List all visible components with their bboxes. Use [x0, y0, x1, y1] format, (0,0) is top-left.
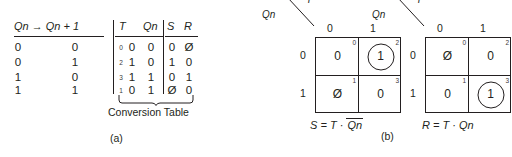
- cell-qn-now: 0: [12, 56, 24, 68]
- cell-qn: 0: [145, 41, 157, 53]
- cell-qn-now: 1: [12, 71, 24, 83]
- cell-s: 0: [166, 71, 178, 83]
- kmap-cell[interactable]: 0 0: [316, 38, 359, 76]
- header-s: S: [167, 20, 174, 32]
- kmap-cell-index: 1: [462, 77, 466, 84]
- kmap-equation: S = T · Qn: [310, 119, 363, 131]
- kmap-col-label-0: 0: [433, 22, 447, 34]
- kmap-cell[interactable]: 2 0: [469, 38, 512, 76]
- kmap-grid: 0 Ø 2 0 1 0 3 1: [425, 37, 511, 113]
- kmap-cell-value: Ø: [316, 87, 359, 101]
- caption-b: (b): [381, 130, 394, 142]
- cell-s: 1: [166, 56, 178, 68]
- equation-term-1: T: [443, 119, 450, 131]
- vrule-left: [113, 20, 114, 94]
- kmap-row-label-0: 0: [406, 49, 420, 61]
- cell-r: Ø: [183, 41, 195, 53]
- kmap-r: T Qn 0 1 0 1 0 Ø 2 0 1 0 3 1: [372, 0, 512, 130]
- kmap-cell-index: 1: [352, 77, 356, 84]
- kmap-cell-index: 2: [505, 39, 509, 46]
- header-rule-mid: [115, 36, 163, 37]
- header-rule-left: [14, 36, 104, 37]
- equation-lhs: S: [310, 119, 317, 131]
- kmap-corner-var-side: Qn: [262, 9, 275, 20]
- header-rule-right: [165, 36, 198, 37]
- kmap-row-label-1: 1: [406, 87, 420, 99]
- cell-row-index: 1: [117, 87, 125, 94]
- kmap-cell-value: 1: [469, 87, 512, 101]
- cell-qn-next: 0: [69, 71, 81, 83]
- header-transition: Qn → Qn + 1: [14, 20, 79, 32]
- cell-s: 0: [166, 41, 178, 53]
- kmap-equation: R = T · Qn: [422, 119, 474, 131]
- equation-operator: =: [320, 119, 326, 131]
- cell-row-index: 0: [117, 44, 125, 51]
- equation-lhs: R: [422, 119, 430, 131]
- cell-t: 1: [126, 71, 138, 83]
- kmap-corner-var-top: T: [306, 0, 312, 5]
- conversion-brace-icon: [118, 95, 196, 106]
- conversion-table-label: Conversion Table: [108, 106, 189, 118]
- kmap-cell-value: 0: [316, 49, 359, 63]
- kmap-row-label-0: 0: [296, 49, 310, 61]
- equation-term-1: T: [330, 119, 337, 131]
- header-r: R: [184, 20, 192, 32]
- kmap-cell-index: 0: [462, 39, 466, 46]
- equation-term-2: Qn: [346, 118, 363, 131]
- kmap-cell[interactable]: 3 1: [469, 76, 512, 114]
- vrule-right: [163, 20, 164, 94]
- kmap-cell[interactable]: 1 0: [426, 76, 469, 114]
- kmap-col-label-0: 0: [323, 22, 337, 34]
- conversion-table-panel: Qn → Qn + 1 T Qn S R 0 0 0 0 0 0 Ø 0 1 2…: [14, 20, 214, 120]
- kmap-cell[interactable]: 1 Ø: [316, 76, 359, 114]
- equation-operator: =: [433, 119, 439, 131]
- cell-qn-next: 0: [69, 41, 81, 53]
- kmap-cell[interactable]: 0 Ø: [426, 38, 469, 76]
- kmap-corner-var-top: T: [416, 0, 422, 5]
- cell-qn-now: 0: [12, 41, 24, 53]
- cell-row-index: 3: [117, 74, 125, 81]
- header-qn: Qn: [143, 20, 158, 32]
- cell-qn-now: 1: [12, 84, 24, 96]
- kmap-corner-var-side: Qn: [372, 9, 385, 20]
- cell-r: 0: [183, 56, 195, 68]
- kmap-cell-value: 0: [469, 49, 512, 63]
- cell-qn-next: 1: [69, 56, 81, 68]
- equation-dot: ·: [340, 119, 344, 131]
- cell-qn: 0: [145, 56, 157, 68]
- cell-qn-next: 1: [69, 84, 81, 96]
- kmap-cell-index: 3: [505, 77, 509, 84]
- cell-r: 1: [183, 71, 195, 83]
- cell-t: 1: [126, 56, 138, 68]
- kmap-cell-value: 0: [426, 87, 469, 101]
- cell-row-index: 2: [117, 59, 125, 66]
- kmap-row-label-1: 1: [296, 87, 310, 99]
- cell-qn: 1: [145, 71, 157, 83]
- caption-a: (a): [110, 132, 123, 144]
- cell-t: 0: [126, 41, 138, 53]
- equation-term-2: Qn: [459, 119, 474, 131]
- kmap-cell-index: 0: [352, 39, 356, 46]
- kmap-cell-value: Ø: [426, 49, 469, 63]
- kmap-col-label-1: 1: [476, 22, 490, 34]
- equation-dot: ·: [452, 119, 456, 131]
- header-t: T: [119, 20, 126, 32]
